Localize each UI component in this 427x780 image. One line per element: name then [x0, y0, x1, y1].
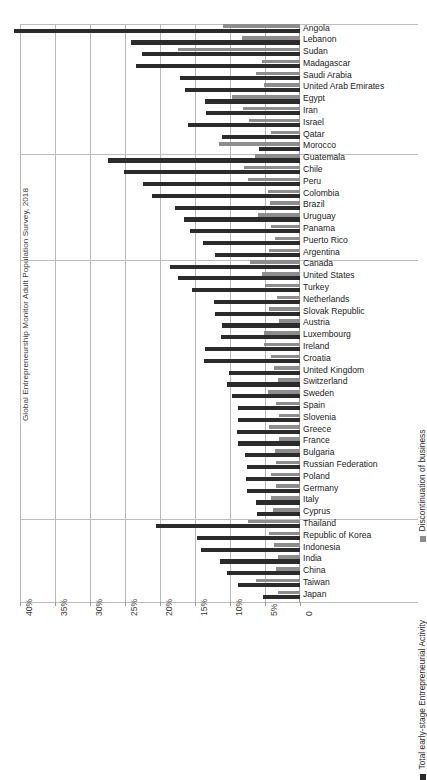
bar-discontinuation: [271, 225, 300, 229]
bar-discontinuation: [269, 425, 300, 429]
table-row[interactable]: Sweden: [20, 390, 300, 402]
table-row[interactable]: Canada: [20, 260, 300, 272]
table-row[interactable]: Russian Federation: [20, 460, 300, 472]
table-row[interactable]: Netherlands: [20, 295, 300, 307]
table-row[interactable]: Indonesia: [20, 543, 300, 555]
row-label: Iran: [303, 105, 318, 116]
table-row[interactable]: Madagascar: [20, 59, 300, 71]
table-row[interactable]: United Kingdom: [20, 366, 300, 378]
bar-tea: [197, 536, 300, 540]
x-tick-label: 35%: [59, 576, 69, 616]
bar-discontinuation: [249, 119, 300, 123]
bar-discontinuation: [255, 154, 300, 158]
row-label: Poland: [303, 471, 330, 482]
table-row[interactable]: Colombia: [20, 189, 300, 201]
table-row[interactable]: Puerto Rico: [20, 236, 300, 248]
bar-tea: [108, 158, 301, 162]
bar-discontinuation: [264, 343, 300, 347]
table-row[interactable]: Switzerland: [20, 378, 300, 390]
bar-discontinuation: [178, 48, 301, 52]
bar-tea: [178, 276, 300, 280]
table-row[interactable]: Germany: [20, 484, 300, 496]
bar-tea: [188, 123, 300, 127]
table-row[interactable]: Peru: [20, 177, 300, 189]
x-tick-label: 25%: [129, 576, 139, 616]
table-row[interactable]: Iran: [20, 107, 300, 119]
bar-discontinuation: [274, 366, 300, 370]
table-row[interactable]: Croatia: [20, 354, 300, 366]
table-row[interactable]: Luxembourg: [20, 331, 300, 343]
table-row[interactable]: France: [20, 437, 300, 449]
row-label: Indonesia: [303, 542, 340, 553]
table-row[interactable]: Chile: [20, 166, 300, 178]
bar-tea: [131, 40, 300, 44]
bar-tea: [124, 170, 300, 174]
table-row[interactable]: Turkey: [20, 284, 300, 296]
table-row[interactable]: India: [20, 555, 300, 567]
bar-discontinuation: [243, 107, 300, 111]
bar-discontinuation: [271, 131, 300, 135]
bar-tea: [222, 135, 300, 139]
table-row[interactable]: Guatemala: [20, 154, 300, 166]
table-row[interactable]: Uruguay: [20, 213, 300, 225]
table-row[interactable]: Italy: [20, 496, 300, 508]
row-label: India: [303, 553, 322, 564]
x-tick-mark: [230, 602, 231, 606]
table-row[interactable]: Slovak Republic: [20, 307, 300, 319]
bar-discontinuation: [258, 213, 300, 217]
table-row[interactable]: Brazil: [20, 201, 300, 213]
bar-tea: [204, 359, 300, 363]
table-row[interactable]: Spain: [20, 401, 300, 413]
table-row[interactable]: United Arab Emirates: [20, 83, 300, 95]
bar-tea: [206, 111, 301, 115]
table-row[interactable]: Argentina: [20, 248, 300, 260]
table-row[interactable]: Austria: [20, 319, 300, 331]
bar-discontinuation: [269, 532, 300, 536]
bar-discontinuation: [270, 201, 300, 205]
table-row[interactable]: Thailand: [20, 519, 300, 531]
table-row[interactable]: Panama: [20, 225, 300, 237]
legend-item[interactable]: Discontinuation of business: [417, 322, 427, 542]
table-row[interactable]: Ireland: [20, 342, 300, 354]
table-row[interactable]: Sudan: [20, 48, 300, 60]
x-tick-label: 20%: [164, 576, 174, 616]
plot-area: AngolaLebanonSudanMadagascarSaudi Arabia…: [20, 24, 300, 602]
bar-tea: [245, 453, 300, 457]
table-row[interactable]: United States: [20, 272, 300, 284]
legend-item[interactable]: Total early-stage Entrepreneurial Activi…: [417, 560, 427, 780]
table-row[interactable]: Angola: [20, 24, 300, 36]
bar-discontinuation: [275, 237, 300, 241]
bar-tea: [205, 99, 300, 103]
bar-tea: [136, 64, 301, 68]
bar-discontinuation: [262, 272, 300, 276]
bar-tea: [237, 430, 300, 434]
table-row[interactable]: Qatar: [20, 130, 300, 142]
table-row[interactable]: Israel: [20, 118, 300, 130]
table-row[interactable]: Republic of Korea: [20, 531, 300, 543]
row-label: Republic of Korea: [303, 530, 371, 541]
bar-tea: [205, 347, 300, 351]
table-row[interactable]: Bulgaria: [20, 449, 300, 461]
table-row[interactable]: Greece: [20, 425, 300, 437]
table-row[interactable]: Slovenia: [20, 413, 300, 425]
bar-discontinuation: [248, 178, 301, 182]
row-label: Peru: [303, 176, 321, 187]
table-row[interactable]: Morocco: [20, 142, 300, 154]
table-row[interactable]: Saudi Arabia: [20, 71, 300, 83]
bar-discontinuation: [275, 449, 300, 453]
x-tick-mark: [265, 602, 266, 606]
row-label: Netherlands: [303, 294, 349, 305]
table-row[interactable]: Egypt: [20, 95, 300, 107]
row-label: Uruguay: [303, 211, 335, 222]
bar-discontinuation: [265, 284, 300, 288]
bar-discontinuation: [242, 36, 300, 40]
x-tick-label: 5%: [269, 576, 279, 616]
row-label: United States: [303, 270, 355, 281]
table-row[interactable]: Lebanon: [20, 36, 300, 48]
table-row[interactable]: Poland: [20, 472, 300, 484]
bar-tea: [229, 371, 300, 375]
table-row[interactable]: Cyprus: [20, 508, 300, 520]
bar-discontinuation: [264, 331, 300, 335]
x-tick-label: 15%: [199, 576, 209, 616]
row-label: Argentina: [303, 247, 340, 258]
